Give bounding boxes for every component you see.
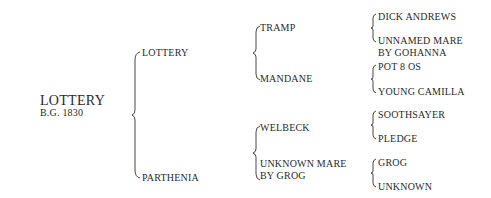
brace-gen1 — [132, 50, 142, 180]
unknown-mare-line2: BY GROG — [260, 170, 306, 182]
unknown-mare-line1: UNKNOWN MARE — [260, 158, 347, 170]
dam-parthenia: PARTHENIA — [142, 172, 199, 184]
subject-info: B.G. 1830 — [40, 107, 83, 119]
tramp: TRAMP — [260, 22, 295, 34]
young-camilla: YOUNG CAMILLA — [378, 86, 465, 98]
pledge: PLEDGE — [378, 133, 418, 145]
subject-name: LOTTERY — [40, 93, 105, 108]
welbeck: WELBECK — [260, 122, 310, 134]
unknown: UNKNOWN — [378, 181, 432, 193]
brace-mandane-parents — [370, 64, 378, 94]
unnamed-mare-line2: BY GOHANNA — [378, 47, 447, 59]
pot-8-os: POT 8 OS — [378, 61, 421, 73]
dick-andrews: DICK ANDREWS — [378, 11, 456, 23]
brace-unknown-mare-parents — [370, 158, 378, 188]
unnamed-mare-line1: UNNAMED MARE — [378, 35, 463, 47]
soothsayer: SOOTHSAYER — [378, 109, 445, 121]
sire-lottery: LOTTERY — [142, 47, 188, 59]
grog: GROG — [378, 157, 407, 169]
mandane: MANDANE — [260, 73, 313, 85]
brace-welbeck-parents — [370, 110, 378, 140]
brace-tramp-parents — [370, 13, 378, 43]
